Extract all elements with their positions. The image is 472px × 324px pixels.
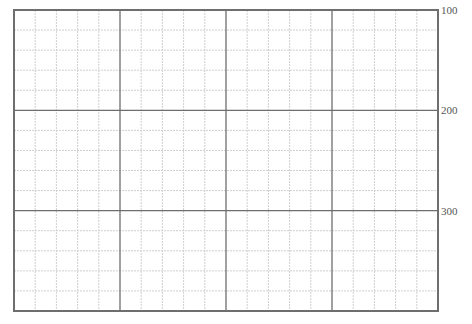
chart-plot-area [0, 0, 472, 324]
y-tick-label: 200 [441, 105, 458, 116]
y-tick-label: 100 [441, 5, 458, 16]
y-tick-label: 300 [441, 206, 458, 217]
